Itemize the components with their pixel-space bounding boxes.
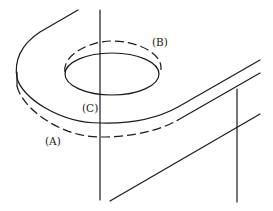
hole-top-edge xyxy=(65,53,159,95)
label-a: (A) xyxy=(45,135,61,147)
label-c: (C) xyxy=(82,102,98,114)
plate-top-edge xyxy=(16,10,260,123)
hole-bottom-edge-hidden xyxy=(65,41,161,72)
plate-bottom-right-edge xyxy=(178,73,260,120)
plate-diagram: (B) (C) (A) xyxy=(0,0,273,211)
label-b: (B) xyxy=(152,36,168,48)
